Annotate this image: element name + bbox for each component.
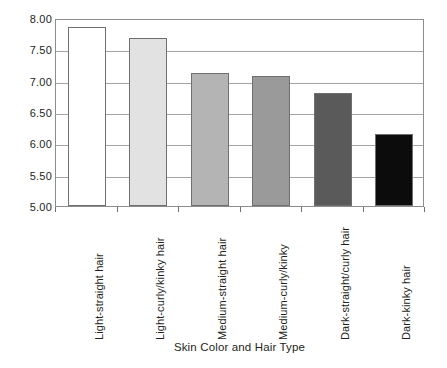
y-axis-tick-labels: 8.00 7.50 7.00 6.50 6.00 5.50 5.00: [14, 19, 52, 207]
bar: [191, 73, 229, 206]
y-tick-label: 5.50: [14, 171, 52, 182]
x-axis-title: Skin Color and Hair Type: [55, 340, 424, 354]
y-tick-label: 8.00: [14, 14, 52, 25]
plot-area: [55, 19, 424, 207]
x-category-label: Light-straight hair: [92, 210, 106, 340]
bar: [375, 134, 413, 206]
y-tick-label: 7.00: [14, 77, 52, 88]
x-tick-mark: [424, 207, 425, 212]
y-axis-title: Years of Schooling: [0, 0, 14, 47]
bars-layer: [56, 20, 423, 206]
x-category-label: Medium-straight hair: [215, 210, 229, 340]
x-category-label: Light-curly/kinky hair: [153, 210, 167, 340]
x-axis-category-labels: Light-straight hair Light-curly/kinky ha…: [55, 212, 424, 332]
bar: [314, 93, 352, 206]
bar-chart-figure: Years of Schooling 8.00 7.50 7.00 6.50 6…: [0, 0, 447, 368]
y-tick-label: 5.00: [14, 202, 52, 213]
x-category-label: Medium-curly/kinky: [276, 210, 290, 340]
bar: [68, 27, 106, 206]
y-tick-label: 6.50: [14, 108, 52, 119]
y-tick-label: 7.50: [14, 45, 52, 56]
x-category-label: Dark-straight/curly hair: [338, 210, 352, 340]
bar: [252, 76, 290, 206]
x-category-label: Dark-kinky hair: [399, 210, 413, 340]
bar: [129, 38, 167, 206]
y-tick-label: 6.00: [14, 139, 52, 150]
